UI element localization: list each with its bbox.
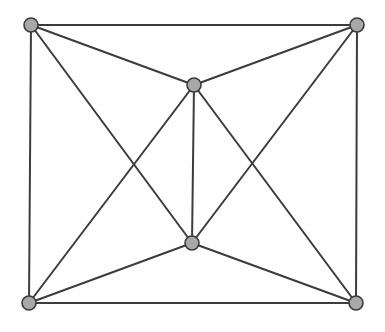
- graph-edge: [31, 25, 192, 243]
- graph-edge: [29, 243, 192, 303]
- graph-vertex-top-left: [24, 18, 38, 32]
- graph-edge: [356, 25, 357, 303]
- graph-edge: [29, 85, 194, 303]
- graph-vertex-middle-upper: [187, 78, 201, 92]
- graph-vertex-bottom-left: [22, 296, 36, 310]
- graph-edge: [192, 243, 356, 303]
- graph-edge: [192, 85, 194, 243]
- graph-figure: [0, 0, 385, 332]
- graph-edge: [194, 25, 357, 85]
- graph-edge: [194, 85, 356, 303]
- graph-edge: [29, 25, 31, 303]
- graph-vertex-middle-lower: [185, 236, 199, 250]
- edge-layer: [29, 25, 357, 303]
- graph-canvas: [0, 0, 385, 332]
- graph-edge: [192, 25, 357, 243]
- graph-vertex-bottom-right: [349, 296, 363, 310]
- graph-edge: [31, 25, 194, 85]
- graph-vertex-top-right: [350, 18, 364, 32]
